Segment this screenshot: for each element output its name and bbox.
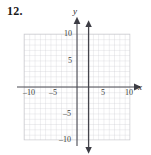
x-tick-label-neg10: –10 [23,89,35,97]
y-tick-label-neg5: –5 [63,110,71,118]
y-tick-label-10: 10 [64,30,72,38]
x-tick-label-10: 10 [125,89,133,97]
x-axis-name-label: x [138,83,142,92]
x-tick-label-5: 5 [101,89,105,97]
series-arrow-top-icon [85,20,91,27]
y-tick-label-5: 5 [68,57,72,65]
y-tick-label-neg10: –10 [59,136,71,144]
coordinate-plane-plot [0,0,151,155]
y-axis-name-label: y [73,7,77,16]
graph-figure: 12. [0,0,151,155]
y-axis-arrow-icon [74,17,81,24]
series-arrow-bottom-icon [85,147,91,154]
x-tick-label-neg5: –5 [49,89,57,97]
